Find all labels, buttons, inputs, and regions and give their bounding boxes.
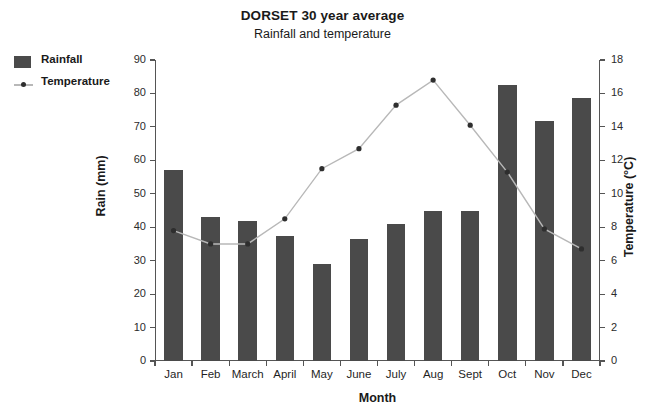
left-tick-mark — [150, 93, 155, 94]
x-tick-mark — [229, 361, 230, 366]
line-series-temperature — [155, 60, 600, 361]
bar — [313, 264, 332, 361]
right-tick-label: 12 — [611, 154, 623, 165]
x-tick-label: March — [229, 369, 266, 381]
left-tick-label: 20 — [134, 288, 146, 299]
x-tick-mark — [154, 361, 155, 366]
bar — [164, 170, 183, 361]
x-tick-label: July — [378, 369, 415, 381]
x-tick-mark — [340, 361, 341, 366]
legend-label-temperature: Temperature — [41, 75, 110, 87]
temperature-data-point — [468, 123, 473, 128]
left-tick-label: 30 — [134, 255, 146, 266]
left-tick-label: 10 — [134, 322, 146, 333]
x-tick-label: Dec — [563, 369, 600, 381]
left-tick-label: 50 — [134, 188, 146, 199]
x-tick-label: Oct — [489, 369, 526, 381]
right-tick-mark — [600, 227, 605, 228]
left-tick-mark — [150, 294, 155, 295]
chart-legend: Rainfall Temperature — [12, 52, 132, 96]
right-tick-mark — [600, 360, 605, 361]
x-tick-mark — [562, 361, 563, 366]
x-tick-label: Aug — [415, 369, 452, 381]
left-tick-label: 70 — [134, 121, 146, 132]
y-axis-title-left: Rain (mm) — [94, 155, 108, 216]
bar — [387, 224, 406, 361]
left-tick-label: 60 — [134, 154, 146, 165]
right-tick-mark — [600, 160, 605, 161]
right-tick-mark — [600, 260, 605, 261]
x-tick-mark — [191, 361, 192, 366]
legend-item-temperature: Temperature — [12, 74, 132, 96]
left-tick-mark — [150, 260, 155, 261]
bar — [276, 236, 295, 361]
left-tick-mark — [150, 59, 155, 60]
bar — [572, 98, 591, 361]
right-tick-label: 14 — [611, 121, 623, 132]
plot-area: 0102030405060708090 024681012141618 JanF… — [155, 60, 600, 361]
right-tick-label: 4 — [611, 288, 617, 299]
x-tick-mark — [525, 361, 526, 366]
chart-title: DORSET 30 year average — [0, 8, 645, 23]
left-tick-label: 90 — [134, 54, 146, 65]
x-tick-mark — [303, 361, 304, 366]
left-tick-mark — [150, 227, 155, 228]
left-tick-mark — [150, 126, 155, 127]
x-tick-mark — [488, 361, 489, 366]
left-tick-label: 80 — [134, 87, 146, 98]
bar-swatch-icon — [14, 56, 31, 68]
x-tick-mark — [599, 361, 600, 366]
x-tick-mark — [377, 361, 378, 366]
x-tick-mark — [414, 361, 415, 366]
left-tick-label: 0 — [140, 355, 146, 366]
x-tick-label: June — [340, 369, 377, 381]
right-axis-line — [599, 60, 600, 361]
right-tick-label: 8 — [611, 221, 617, 232]
bar — [238, 221, 257, 361]
right-tick-label: 6 — [611, 255, 617, 266]
temperature-data-point — [393, 103, 398, 108]
right-tick-label: 2 — [611, 322, 617, 333]
temperature-data-point — [356, 146, 361, 151]
bar — [201, 217, 220, 361]
chart-figure: DORSET 30 year average Rainfall and temp… — [0, 0, 645, 416]
bar — [424, 211, 443, 362]
temperature-data-point — [319, 166, 324, 171]
legend-item-rainfall: Rainfall — [12, 52, 132, 74]
x-tick-label: Jan — [155, 369, 192, 381]
x-tick-label: Nov — [526, 369, 563, 381]
right-tick-mark — [600, 294, 605, 295]
right-tick-mark — [600, 327, 605, 328]
x-tick-mark — [266, 361, 267, 366]
x-tick-label: Feb — [192, 369, 229, 381]
right-tick-mark — [600, 193, 605, 194]
right-tick-label: 18 — [611, 54, 623, 65]
y-axis-title-right: Temperature (°C) — [622, 157, 636, 258]
right-tick-label: 10 — [611, 188, 623, 199]
bar — [535, 121, 554, 361]
right-tick-label: 0 — [611, 355, 617, 366]
left-tick-label: 40 — [134, 221, 146, 232]
x-tick-label: April — [266, 369, 303, 381]
temperature-line-path — [174, 80, 582, 249]
marker-dot-icon — [21, 82, 26, 87]
legend-label-rainfall: Rainfall — [41, 53, 83, 65]
left-tick-mark — [150, 327, 155, 328]
temperature-data-point — [282, 216, 287, 221]
right-tick-mark — [600, 59, 605, 60]
x-tick-label: Sept — [452, 369, 489, 381]
bar — [350, 239, 369, 361]
left-axis-line — [155, 60, 156, 361]
bar — [498, 85, 517, 361]
x-tick-label: May — [303, 369, 340, 381]
left-tick-mark — [150, 193, 155, 194]
x-tick-mark — [451, 361, 452, 366]
chart-subtitle: Rainfall and temperature — [0, 27, 645, 41]
right-tick-mark — [600, 126, 605, 127]
right-tick-mark — [600, 93, 605, 94]
left-tick-mark — [150, 160, 155, 161]
x-axis-title: Month — [155, 391, 600, 405]
temperature-data-point — [431, 77, 436, 82]
right-tick-label: 16 — [611, 87, 623, 98]
bar — [461, 211, 480, 362]
